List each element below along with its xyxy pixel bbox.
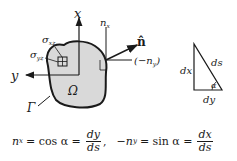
boundary-label: Γ bbox=[26, 101, 36, 115]
nx-label: nx bbox=[100, 17, 110, 29]
normal-vector-arrow bbox=[106, 45, 137, 60]
fraction-dx-ds: dxds bbox=[197, 129, 212, 154]
neg-ny-label: (−ny) bbox=[134, 55, 160, 68]
normal-vector-label: n̂ bbox=[137, 35, 146, 49]
x-axis-label: x bbox=[74, 6, 82, 21]
sigma-yz-label: σyz bbox=[30, 49, 44, 62]
y-axis-label: y bbox=[10, 68, 19, 83]
fraction-dy-ds: dyds bbox=[86, 129, 101, 154]
alpha-label: α bbox=[211, 81, 217, 90]
domain-label: Ω bbox=[67, 84, 78, 98]
ds-label: ds bbox=[211, 57, 223, 68]
dx-label: dx bbox=[180, 65, 192, 76]
dy-label: dy bbox=[203, 94, 215, 105]
direction-cosine-equation: nx = cos α = dyds , −ny = sin α = dxds bbox=[12, 126, 232, 156]
sigma-xz-label: σxz bbox=[42, 34, 56, 46]
